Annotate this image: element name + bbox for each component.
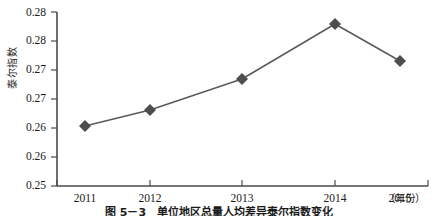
- figure-caption: 图 5－3 单位地区总量人均差异泰尔指数变化: [0, 206, 438, 216]
- x-tick-label: 2013: [207, 192, 277, 204]
- x-axis-unit-label: （年份）: [385, 192, 425, 204]
- figure-container: 泰尔指数 0.28 0.28 0.27 0.27 0.26 0.26 0.25: [0, 0, 438, 216]
- x-axis-tick-labels: 2011 2012 2013 2014 2015: [0, 0, 438, 216]
- x-tick-label: 2012: [115, 192, 185, 204]
- x-tick-label: 2014: [300, 192, 370, 204]
- x-tick-label: 2011: [50, 192, 120, 204]
